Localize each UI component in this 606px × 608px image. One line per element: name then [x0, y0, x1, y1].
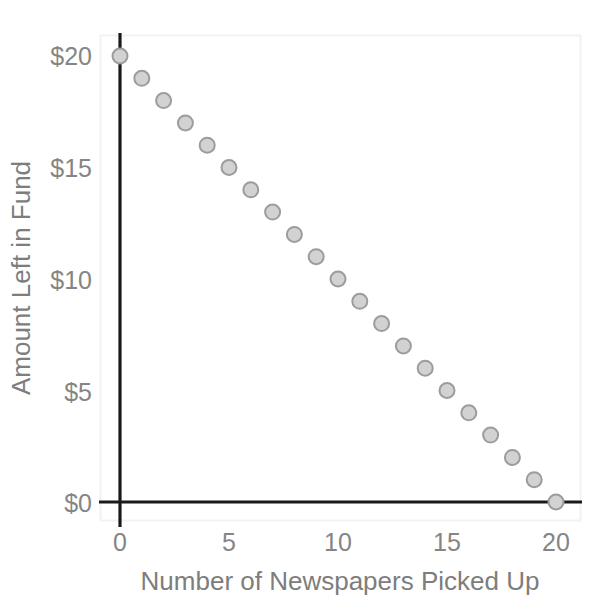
data-point	[483, 428, 498, 443]
data-point	[374, 316, 389, 331]
data-point	[113, 49, 128, 64]
data-point	[505, 450, 520, 465]
data-point	[287, 227, 302, 242]
x-tick-label-0: 0	[113, 528, 127, 556]
data-point	[396, 338, 411, 353]
chart-canvas: $20 $15 $10 $5 $0 0 5 10 15 20 Number of…	[0, 0, 606, 608]
data-point	[222, 160, 237, 175]
y-tick-label-10: $10	[50, 266, 92, 294]
y-tick-label-15: $15	[50, 154, 92, 182]
x-axis-title: Number of Newspapers Picked Up	[141, 566, 540, 596]
data-point	[418, 361, 433, 376]
data-point	[352, 294, 367, 309]
x-tick-label-20: 20	[542, 528, 570, 556]
data-point	[309, 249, 324, 264]
data-point	[440, 383, 455, 398]
data-point	[243, 182, 258, 197]
data-point	[461, 405, 476, 420]
data-point	[549, 495, 564, 510]
y-tick-label-5: $5	[64, 378, 92, 406]
scatter-plot-figure: $20 $15 $10 $5 $0 0 5 10 15 20 Number of…	[0, 0, 606, 608]
data-point	[265, 205, 280, 220]
y-tick-label-20: $20	[50, 42, 92, 70]
data-point	[134, 71, 149, 86]
y-tick-label-0: $0	[64, 489, 92, 517]
data-point	[527, 472, 542, 487]
x-tick-label-10: 10	[324, 528, 352, 556]
x-tick-label-15: 15	[433, 528, 461, 556]
data-point	[200, 138, 215, 153]
data-point	[156, 93, 171, 108]
data-point	[331, 272, 346, 287]
data-point	[178, 115, 193, 130]
x-tick-label-5: 5	[222, 528, 236, 556]
y-axis-title: Amount Left in Fund	[6, 161, 36, 395]
